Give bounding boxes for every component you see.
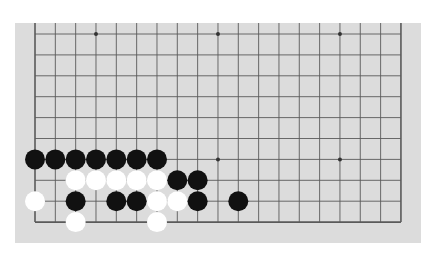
black-stone[interactable] [188,170,208,190]
black-stone[interactable] [66,191,86,211]
grid-lines [35,23,401,222]
star-point [94,32,98,36]
star-point [338,157,342,161]
white-stone[interactable] [106,170,126,190]
star-point [216,32,220,36]
black-stone[interactable] [106,149,126,169]
white-stone[interactable] [147,170,167,190]
black-stone[interactable] [147,149,167,169]
white-stone[interactable] [66,212,86,232]
black-stone[interactable] [167,170,187,190]
black-stone[interactable] [127,149,147,169]
white-stone[interactable] [127,170,147,190]
white-stone[interactable] [147,212,167,232]
black-stone[interactable] [66,149,86,169]
white-stone[interactable] [167,191,187,211]
black-stone[interactable] [86,149,106,169]
board-grid[interactable] [15,23,421,243]
black-stone[interactable] [106,191,126,211]
white-stone[interactable] [86,170,106,190]
white-stone[interactable] [66,170,86,190]
star-point [216,157,220,161]
star-point [338,32,342,36]
black-stone[interactable] [127,191,147,211]
white-stone[interactable] [147,191,167,211]
go-board[interactable] [15,23,421,243]
black-stone[interactable] [45,149,65,169]
black-stone[interactable] [188,191,208,211]
black-stone[interactable] [25,149,45,169]
white-stone[interactable] [25,191,45,211]
black-stone[interactable] [228,191,248,211]
